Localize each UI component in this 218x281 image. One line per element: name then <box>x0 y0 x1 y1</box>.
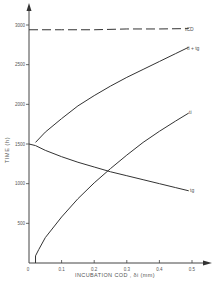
y-tick-label: 2500 <box>15 62 26 67</box>
chart: 50010001500200025003000 00.10.20.30.40.5… <box>0 0 218 281</box>
y-ticks: 50010001500200025003000 <box>15 23 29 226</box>
label-tcd: tCD <box>185 26 194 32</box>
x-tick-label: 0.5 <box>189 267 196 272</box>
x-tick-label: 0.1 <box>58 267 65 272</box>
y-tick-label: 1500 <box>15 142 26 147</box>
series-ti-plus-tg-line <box>36 47 189 142</box>
x-axis-arrow-icon <box>203 261 212 266</box>
y-axis-arrow-icon <box>27 3 32 11</box>
label-tg: tg <box>190 187 194 193</box>
series-tg-line <box>29 144 189 191</box>
label-ti: ti <box>189 109 192 115</box>
y-tick-label: 1000 <box>15 181 26 186</box>
series-ti-line <box>36 113 189 263</box>
label-ti-plus-tg: ti + tg <box>187 45 200 51</box>
x-tick-label: 0.4 <box>156 267 163 272</box>
series-lines <box>29 29 189 263</box>
y-axis <box>27 3 32 263</box>
x-tick-label: 0 <box>27 267 30 272</box>
y-axis-label: TIME (h) <box>4 137 10 163</box>
y-tick-label: 500 <box>17 221 25 226</box>
x-ticks: 00.10.20.30.40.5 <box>27 260 196 272</box>
x-axis-label: INCUBATION COD , δi (mm) <box>75 272 155 278</box>
y-tick-label: 2000 <box>15 102 26 107</box>
x-axis <box>29 261 212 266</box>
y-tick-label: 3000 <box>15 23 26 28</box>
series-tCD-line <box>29 29 189 30</box>
